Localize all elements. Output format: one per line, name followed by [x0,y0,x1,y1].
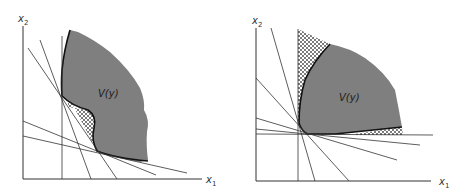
x-axis-label: x1 [439,177,449,190]
y-axis-label: x2 [18,14,28,27]
region-label: V(y) [339,92,360,103]
right-diagram: x2 x1 V(y) [235,0,470,190]
support-line-horizontal [256,134,433,135]
y-axis-label: x2 [252,16,262,29]
region-label: V(y) [98,88,119,99]
x-axis-label: x1 [206,175,216,188]
left-diagram: x2 x1 V(y) [0,0,235,190]
